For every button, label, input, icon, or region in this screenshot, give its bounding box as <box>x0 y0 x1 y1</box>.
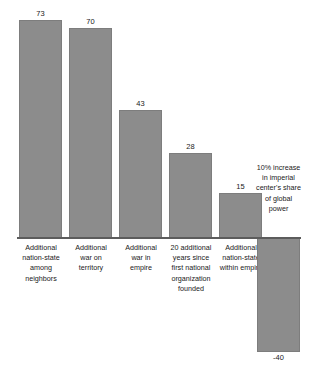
category-label-line: organization <box>160 274 222 284</box>
bar-value-label-1: 73 <box>19 9 62 18</box>
category-label-2: Additionalwar onterritory <box>63 243 119 274</box>
category-label-line: neighbors <box>13 274 69 284</box>
chart-page: 73Additionalnation-stateamongneighbors70… <box>0 0 312 373</box>
bar-annotation-6: 10% increase in imperial center's share … <box>255 163 302 214</box>
bar-2 <box>69 28 112 238</box>
bar-value-label-4: 28 <box>169 142 212 151</box>
category-label-line: war on <box>63 253 119 263</box>
category-label-line: founded <box>160 284 222 294</box>
category-label-1: Additionalnation-stateamongneighbors <box>13 243 69 284</box>
bar-1 <box>19 20 62 238</box>
category-label-line: Additional <box>13 243 69 253</box>
category-label-line: Additional <box>63 243 119 253</box>
bar-value-label-3: 43 <box>119 99 162 108</box>
footer-strip <box>0 363 312 373</box>
bar-4 <box>169 153 212 238</box>
zero-axis-line <box>17 237 301 239</box>
category-label-line: nation-state <box>13 253 69 263</box>
bar-chart-plot-area: 73Additionalnation-stateamongneighbors70… <box>0 0 312 373</box>
category-label-line: among <box>13 263 69 273</box>
category-label-line: territory <box>63 263 119 273</box>
bar-3 <box>119 110 162 238</box>
bar-6 <box>257 238 300 352</box>
bar-value-label-6: -40 <box>257 353 300 362</box>
bar-value-label-2: 70 <box>69 17 112 26</box>
